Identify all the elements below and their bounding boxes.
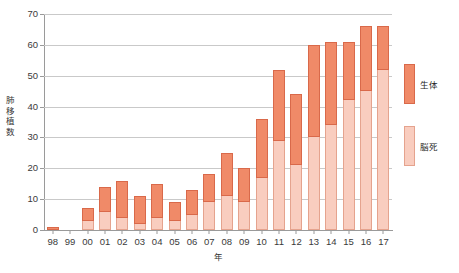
y-tick-label: 50	[10, 70, 38, 81]
x-tick-mark	[209, 230, 210, 234]
stacked-bar[interactable]	[82, 208, 94, 230]
stacked-bar[interactable]	[377, 26, 389, 230]
y-axis-title-char: 植	[4, 116, 17, 127]
x-tick-mark	[383, 230, 384, 234]
stacked-bar[interactable]	[238, 168, 250, 230]
stacked-bar[interactable]	[186, 190, 198, 230]
bar-segment-brain-death	[360, 91, 372, 230]
bar-slot: 02	[114, 14, 131, 230]
x-tick-mark	[174, 230, 175, 234]
x-tick-label: 03	[134, 236, 145, 247]
stacked-bar[interactable]	[325, 42, 337, 230]
stacked-bar[interactable]	[134, 196, 146, 230]
x-tick-label: 06	[187, 236, 198, 247]
y-tick-label: 40	[10, 101, 38, 112]
lung-transplant-bar-chart: 肺 移 植 数 010203040506070 9899000102030405…	[0, 0, 459, 273]
bar-segment-brain-death	[221, 196, 233, 230]
x-tick-label: 08	[221, 236, 232, 247]
bar-slot: 03	[131, 14, 148, 230]
stacked-bar[interactable]	[116, 181, 128, 230]
x-tick-mark	[366, 230, 367, 234]
bar-segment-brain-death	[343, 100, 355, 230]
x-tick-mark	[191, 230, 192, 234]
bar-segment-brain-death	[169, 221, 181, 230]
x-tick-label: 01	[100, 236, 111, 247]
x-tick-label: 05	[169, 236, 180, 247]
x-tick-mark	[70, 230, 71, 234]
bar-segment-living-donor	[238, 168, 250, 202]
bar-group: 9899000102030405060708091011121314151617	[44, 14, 392, 230]
bar-slot: 15	[340, 14, 357, 230]
y-tick-label: 70	[10, 8, 38, 19]
x-tick-label: 15	[343, 236, 354, 247]
bar-segment-brain-death	[238, 202, 250, 230]
x-tick-label: 10	[256, 236, 267, 247]
living-donor-swatch	[404, 64, 415, 104]
y-tick-label: 10	[10, 193, 38, 204]
brain-death-swatch	[404, 126, 415, 166]
bar-segment-brain-death	[151, 218, 163, 230]
x-tick-mark	[104, 230, 105, 234]
stacked-bar[interactable]	[360, 26, 372, 230]
bar-slot: 13	[305, 14, 322, 230]
stacked-bar[interactable]	[203, 174, 215, 230]
x-tick-mark	[313, 230, 314, 234]
bar-segment-living-donor	[343, 42, 355, 101]
bar-segment-brain-death	[290, 165, 302, 230]
x-tick-label: 11	[274, 236, 284, 247]
bar-segment-living-donor	[325, 42, 337, 125]
bar-slot: 16	[357, 14, 374, 230]
bar-segment-brain-death	[82, 221, 94, 230]
bar-slot: 04	[148, 14, 165, 230]
bar-slot: 10	[253, 14, 270, 230]
x-tick-label: 07	[204, 236, 215, 247]
x-tick-label: 09	[239, 236, 250, 247]
x-tick-mark	[87, 230, 88, 234]
bar-segment-living-donor	[203, 174, 215, 202]
bar-segment-living-donor	[134, 196, 146, 224]
x-tick-mark	[157, 230, 158, 234]
stacked-bar[interactable]	[256, 119, 268, 230]
bar-slot: 98	[44, 14, 61, 230]
bar-segment-living-donor	[116, 181, 128, 218]
x-tick-mark	[52, 230, 53, 234]
x-tick-mark	[348, 230, 349, 234]
x-tick-label: 12	[291, 236, 302, 247]
x-tick-label: 14	[326, 236, 337, 247]
x-tick-mark	[296, 230, 297, 234]
x-tick-mark	[261, 230, 262, 234]
bar-slot: 01	[96, 14, 113, 230]
stacked-bar[interactable]	[221, 153, 233, 230]
bar-segment-brain-death	[256, 178, 268, 230]
stacked-bar[interactable]	[290, 94, 302, 230]
x-axis-line	[44, 230, 393, 231]
bar-slot: 07	[201, 14, 218, 230]
bar-segment-living-donor	[99, 187, 111, 212]
bar-segment-brain-death	[99, 212, 111, 231]
y-tick-mark	[40, 230, 44, 231]
x-tick-mark	[278, 230, 279, 234]
bar-slot: 05	[166, 14, 183, 230]
stacked-bar[interactable]	[169, 202, 181, 230]
stacked-bar[interactable]	[308, 45, 320, 230]
x-tick-label: 00	[82, 236, 93, 247]
stacked-bar[interactable]	[151, 184, 163, 230]
bar-segment-living-donor	[377, 26, 389, 69]
x-tick-mark	[122, 230, 123, 234]
bar-slot: 14	[323, 14, 340, 230]
bar-segment-brain-death	[377, 70, 389, 230]
x-tick-label: 16	[361, 236, 372, 247]
y-tick-label: 30	[10, 131, 38, 142]
x-tick-label: 99	[65, 236, 76, 247]
y-tick-label: 20	[10, 162, 38, 173]
plot-area: 010203040506070 989900010203040506070809…	[44, 14, 392, 230]
stacked-bar[interactable]	[99, 187, 111, 230]
stacked-bar[interactable]	[343, 42, 355, 230]
x-tick-label: 17	[378, 236, 389, 247]
bar-segment-living-donor	[221, 153, 233, 196]
legend-item-brain-death: 脳死	[404, 126, 459, 166]
legend-label-living-donor: 生体	[420, 78, 438, 90]
x-tick-label: 98	[47, 236, 58, 247]
bar-slot: 99	[61, 14, 78, 230]
stacked-bar[interactable]	[273, 70, 285, 230]
